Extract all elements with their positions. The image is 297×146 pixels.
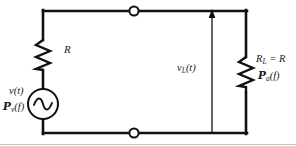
- terminal-nodes: [129, 6, 138, 137]
- load-resistor: [239, 57, 253, 93]
- circuit-diagram-figure: R v(t) Pv(f) vL(t) RL = R Pa(f): [0, 0, 297, 146]
- load-voltage-argument: (t): [186, 62, 196, 73]
- circuit-schematic-canvas: [0, 0, 297, 146]
- load-psd-argument: (f): [270, 70, 280, 81]
- load-voltage-indicator: [209, 9, 216, 133]
- bottom-terminal-node: [129, 128, 138, 137]
- source-psd-argument: (f): [14, 101, 24, 112]
- load-voltage-label: vL(t): [177, 63, 196, 74]
- source-voltage-label: v(t): [9, 86, 24, 97]
- series-resistor: [36, 40, 50, 70]
- top-terminal-node: [129, 6, 138, 15]
- load-resistor-equality: = R: [267, 53, 286, 64]
- load-psd-label: Pa(f): [258, 70, 280, 82]
- source-psd-symbol: P: [3, 100, 11, 112]
- figure-border: [0, 0, 297, 146]
- load-resistor-label: RL = R: [256, 54, 285, 65]
- load-psd-symbol: P: [258, 69, 266, 81]
- ac-voltage-source: [28, 89, 58, 119]
- source-psd-label: Pv(f): [3, 101, 24, 113]
- series-resistor-label: R: [64, 44, 71, 55]
- circuit-wires: [43, 10, 247, 134]
